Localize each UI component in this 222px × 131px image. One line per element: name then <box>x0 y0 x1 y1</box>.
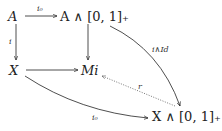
node-a: A <box>8 10 17 23</box>
label-i0-bottom: i₀ <box>92 114 98 122</box>
label-r: r <box>138 83 142 91</box>
label-i0-top: i₀ <box>37 5 43 13</box>
arrow-i0-bottom <box>25 76 148 118</box>
node-mi: Mi <box>81 64 98 77</box>
node-x-smash: X ∧ [0, 1]₊ <box>152 110 221 123</box>
label-i-left: i <box>9 38 12 46</box>
node-x: X <box>9 64 18 77</box>
label-i-smash-id: i∧Id <box>152 46 169 54</box>
node-a-smash: A ∧ [0, 1]₊ <box>60 10 129 23</box>
arrow-r-dotted <box>102 76 175 106</box>
arrow-i-smash-id <box>110 26 180 106</box>
